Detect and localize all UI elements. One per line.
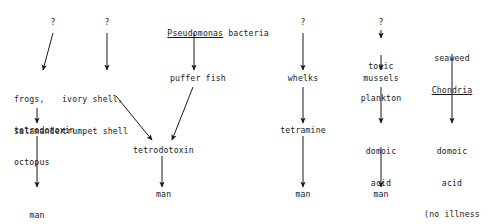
col5-source-organism-line1: toxic	[361, 61, 402, 72]
col5-toxin-line2: acid	[366, 178, 396, 189]
col3-source-common: bacteria	[223, 28, 269, 38]
col6-toxin-line1: domoic	[424, 146, 480, 157]
col2-organism: ivory shell, trumpet shell	[62, 73, 128, 157]
col3-organism: puffer fish	[170, 73, 226, 84]
col1-organism-line3: octopus	[14, 157, 65, 168]
col1-victim: man (toxic through handling)	[14, 189, 85, 224]
col4-victim: man	[295, 189, 310, 200]
col3-source-genus: Pseudomonas	[167, 28, 223, 38]
col5-organism: mussels	[363, 73, 399, 84]
col4-toxin: tetramine	[280, 125, 326, 136]
col5-victim: man	[373, 189, 388, 200]
col6-note-line1: (no illness	[424, 209, 480, 220]
col6-source-genus: Chondria	[432, 85, 473, 96]
col5-source-organism-line2: plankton	[361, 93, 402, 104]
col1-source-unknown: ?	[51, 17, 56, 28]
col5-source-unknown: ?	[379, 17, 384, 28]
col6-source-line1: seaweed	[432, 53, 473, 64]
col1-victim-line1: man	[14, 210, 60, 221]
col3-victim: man	[156, 189, 171, 200]
col4-organism: whelks	[288, 73, 318, 84]
col6-toxin: domoic acid (no illness recorded)	[424, 125, 480, 224]
col6-source: seaweed Chondria	[432, 32, 473, 116]
col3-source: Pseudomonas bacteria	[147, 17, 269, 49]
col6-toxin-line2: acid	[424, 178, 480, 189]
col4-source-unknown: ?	[301, 17, 306, 28]
toxin-pathway-diagram: ? frogs, salamander octopus tetrodotoxin…	[0, 0, 495, 224]
col2-source-unknown: ?	[105, 17, 110, 28]
col5-toxin-line1: domoic	[366, 146, 396, 157]
arrow-puffer-to-tetrodotoxin	[172, 87, 193, 140]
arrow-q1-to-frogs	[43, 33, 53, 70]
col1-organism-line1: frogs,	[14, 94, 65, 105]
col3-toxin: tetrodotoxin	[133, 145, 194, 156]
col2-organism-line2: trumpet shell	[62, 126, 128, 137]
col2-organism-line1: ivory shell,	[62, 94, 128, 105]
